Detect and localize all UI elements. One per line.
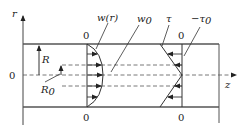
wall-shear-leader [184, 27, 200, 56]
r-axis-label: r [12, 8, 18, 19]
velocity-zero-bottom: 0 [83, 112, 89, 123]
origin-label: 0 [9, 70, 15, 81]
wall-shear-label: −τ0 [191, 13, 212, 26]
pipe-flow-diagram: r z 0 R R0 0 0 w(r) w0 0 0 τ −τ0 [0, 0, 247, 129]
max-velocity-label: w0 [137, 13, 153, 26]
radius-label: R [41, 54, 50, 65]
z-axis-label: z [224, 79, 231, 90]
velocity-profile-curve [87, 44, 103, 107]
shear-stress-profile [160, 44, 182, 107]
r0-label: R0 [40, 84, 56, 97]
velocity-profile-label: w(r) [97, 12, 118, 23]
shear-zero-bottom: 0 [178, 112, 184, 123]
velocity-profile-leader [96, 23, 108, 49]
velocity-zero-top: 0 [83, 30, 89, 41]
shear-stress-leader [162, 25, 169, 46]
shear-stress-label: τ [166, 13, 172, 24]
shear-zero-top: 0 [178, 30, 184, 41]
